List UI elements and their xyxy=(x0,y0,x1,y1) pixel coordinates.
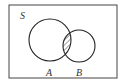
set-a-label: A xyxy=(45,67,53,78)
universe-label: S xyxy=(20,10,25,21)
set-b-label: B xyxy=(76,67,82,78)
venn-diagram: S A B xyxy=(0,0,126,84)
universe-rectangle xyxy=(9,5,117,78)
